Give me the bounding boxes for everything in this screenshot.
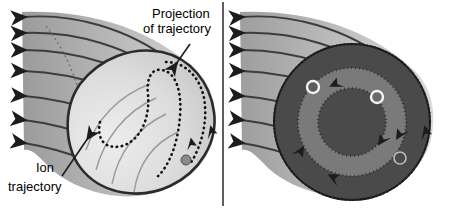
particle-marker-3	[394, 152, 406, 164]
label-ion-line1: Ion	[36, 160, 54, 175]
label-ion-line2: trajectory	[8, 179, 62, 194]
ion-position-marker	[181, 155, 191, 165]
figure-container: Projection of trajectory Ion trajectory	[0, 0, 450, 208]
label-projection-line2: of trajectory	[143, 21, 211, 36]
particle-marker-2	[371, 91, 383, 103]
label-projection-line1: Projection	[152, 6, 210, 21]
left-panel: Projection of trajectory Ion trajectory	[8, 6, 218, 196]
particle-marker-1	[307, 81, 319, 93]
magnetosphere-diagram: Projection of trajectory Ion trajectory	[0, 0, 450, 208]
magnetopause-boundary	[68, 50, 215, 193]
